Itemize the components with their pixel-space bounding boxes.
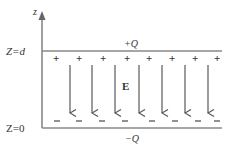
bottom-plate-charge-label: −Q [125,133,140,144]
top-plate-charge-label: +Q [124,38,139,49]
z-axis: z [32,6,46,128]
axis-label: z [32,6,37,17]
capacitor-diagram: z Z=d +Q + + + + + + + + [0,0,235,153]
svg-text:+: + [100,52,106,64]
field-label: E [122,80,129,92]
svg-text:+: + [214,52,220,64]
svg-text:+: + [53,52,59,64]
svg-text:+: + [192,52,198,64]
bottom-plate: Z=0 −Q [6,121,222,144]
svg-text:+: + [76,52,82,64]
top-plate-position-label: Z=d [6,45,26,57]
axis-arrow-icon [39,11,46,20]
svg-text:+: + [169,52,175,64]
bottom-plate-position-label: Z=0 [6,122,25,134]
field-arrows [70,65,208,113]
svg-text:+: + [146,52,152,64]
top-plate: Z=d +Q + + + + + + + + [6,38,222,64]
svg-text:+: + [124,52,130,64]
plus-signs: + + + + + + + + [53,52,220,64]
